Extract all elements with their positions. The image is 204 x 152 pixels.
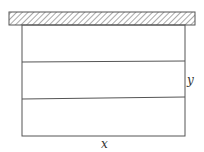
hanging-rectangle [22, 25, 185, 136]
divider-line-1 [22, 61, 185, 62]
divider-line-2 [22, 97, 185, 99]
hatched-ceiling [9, 12, 195, 25]
diagram-canvas: y x [0, 0, 204, 152]
label-x: x [101, 137, 108, 151]
label-y: y [186, 73, 194, 87]
